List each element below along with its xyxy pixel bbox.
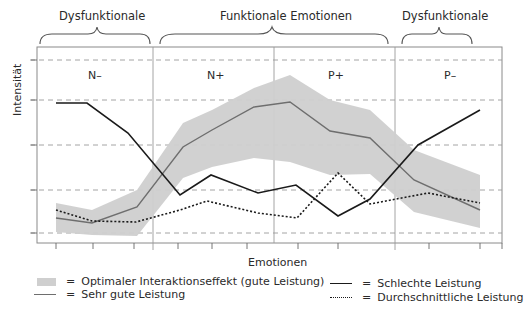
brace-left — [40, 27, 150, 44]
group-braces — [40, 27, 472, 44]
legend-item-optimal-band: = Optimaler Interaktionseffekt (gute Lei… — [37, 275, 324, 288]
legend-equals: = — [362, 291, 371, 304]
legend-label-schlechte: Schlechte Leistung — [377, 277, 481, 290]
group-label-dysfunctional-right: Dysfunktionale — [402, 11, 488, 23]
region-label-p-minus: P– — [444, 70, 456, 81]
legend-equals: = — [66, 288, 75, 301]
region-label-n-minus: N– — [88, 70, 102, 81]
y-axis-ticks — [31, 60, 37, 233]
legend-item-durchschnittliche: = Durchschnittliche Leistung — [330, 291, 524, 304]
brace-right — [402, 27, 472, 44]
legend-equals: = — [362, 277, 371, 290]
group-label-dysfunctional-left: Dysfunktionale — [59, 11, 145, 23]
region-label-p-plus: P+ — [328, 70, 344, 81]
legend-label-optimal: Optimaler Interaktionseffekt (gute Leist… — [81, 275, 324, 288]
region-label-n-plus: N+ — [207, 70, 224, 81]
legend-item-schlechte: = Schlechte Leistung — [330, 277, 481, 290]
series-optimal-band — [56, 75, 480, 236]
legend-gray-line-icon — [34, 294, 56, 295]
brace-middle — [160, 27, 388, 44]
legend-band-swatch-icon — [37, 278, 56, 286]
y-axis-label: Intensität — [12, 64, 23, 116]
legend-black-line-icon — [330, 283, 352, 284]
group-label-functional: Funktionale Emotionen — [220, 11, 352, 23]
legend-equals: = — [66, 275, 75, 288]
legend-item-sehr-gute: = Sehr gute Leistung — [34, 288, 185, 301]
x-axis-label: Emotionen — [248, 257, 307, 268]
legend-dotted-line-icon — [330, 297, 352, 298]
legend-label-durchschnittliche: Durchschnittliche Leistung — [377, 291, 523, 304]
x-axis-ticks — [56, 243, 502, 249]
legend-label-sehr-gute: Sehr gute Leistung — [81, 288, 185, 301]
